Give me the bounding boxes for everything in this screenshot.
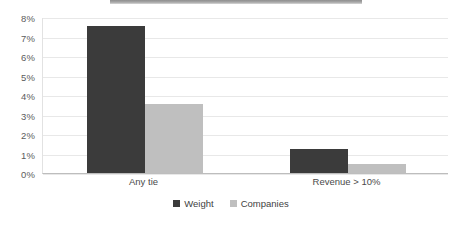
bar-companies-1 (348, 164, 406, 173)
y-axis-tick-label: 8% (21, 13, 35, 24)
top-redaction-strip (110, 0, 362, 4)
y-axis: 0%1%2%3%4%5%6%7%8% (0, 0, 38, 225)
x-axis-tick-label: Revenue > 10% (313, 176, 381, 187)
y-axis-tick-label: 1% (21, 149, 35, 160)
plot-area (42, 18, 448, 174)
y-axis-tick-label: 3% (21, 110, 35, 121)
y-axis-tick-label: 5% (21, 71, 35, 82)
y-axis-tick-label: 4% (21, 91, 35, 102)
legend-item-companies[interactable]: Companies (230, 198, 289, 209)
x-axis: Any tieRevenue > 10% (42, 176, 448, 194)
gridline (43, 18, 448, 19)
legend-label: Companies (241, 198, 289, 209)
y-axis-tick-label: 6% (21, 52, 35, 63)
bar-weight-0 (87, 26, 145, 173)
legend-swatch-icon (173, 200, 180, 207)
x-axis-tick-label: Any tie (129, 176, 158, 187)
chart-legend: WeightCompanies (0, 198, 462, 209)
y-axis-tick-label: 7% (21, 32, 35, 43)
y-axis-tick-label: 0% (21, 169, 35, 180)
legend-item-weight[interactable]: Weight (173, 198, 213, 209)
legend-label: Weight (184, 198, 213, 209)
legend-swatch-icon (230, 200, 237, 207)
bar-chart: 0%1%2%3%4%5%6%7%8% Any tieRevenue > 10% … (0, 0, 462, 225)
y-axis-tick-label: 2% (21, 130, 35, 141)
gridline (43, 174, 448, 175)
bar-weight-1 (290, 149, 348, 173)
bar-companies-0 (145, 104, 203, 173)
